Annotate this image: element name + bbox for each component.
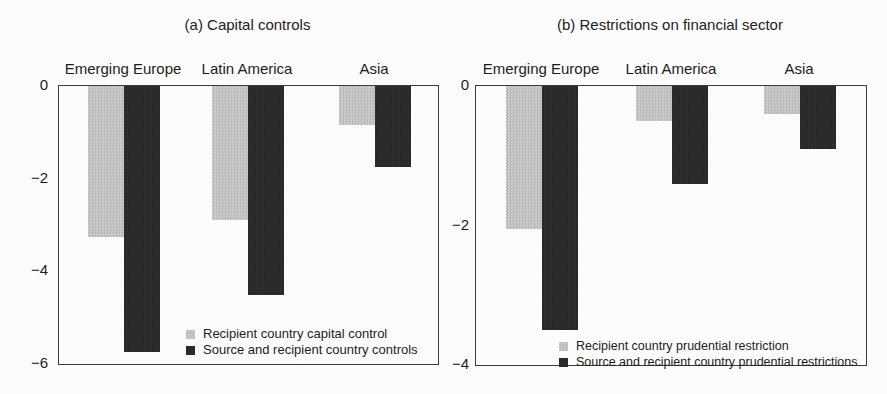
legend-label-source-and-recipient: Source and recipient country controls [203, 342, 418, 358]
legend: Recipient country prudential restriction… [559, 338, 857, 370]
legend-swatch-source-and-recipient [559, 358, 568, 367]
category-label-emerging-europe: Emerging Europe [483, 61, 600, 77]
bar-source-and-recipient-asia [375, 86, 411, 167]
category-label-asia: Asia [359, 61, 388, 77]
bar-recipient-asia [339, 86, 375, 125]
category-label-latin-america: Latin America [202, 61, 293, 77]
bar-recipient-emerging-europe [88, 86, 124, 237]
legend: Recipient country capital controlSource … [186, 326, 418, 358]
legend-label-source-and-recipient: Source and recipient country prudential … [576, 354, 857, 370]
legend-row-recipient: Recipient country capital control [186, 326, 418, 342]
bar-recipient-asia [764, 86, 800, 114]
plot-area: Recipient country prudential restriction… [475, 85, 867, 366]
category-label-latin-america: Latin America [626, 61, 717, 77]
category-label-emerging-europe: Emerging Europe [65, 61, 182, 77]
legend-label-recipient: Recipient country capital control [203, 326, 387, 342]
legend-label-recipient: Recipient country prudential restriction [576, 338, 789, 354]
legend-row-source-and-recipient: Source and recipient country prudential … [559, 354, 857, 370]
bar-source-and-recipient-asia [800, 86, 836, 149]
legend-swatch-recipient [186, 330, 195, 339]
panel-b-title: (b) Restrictions on financial sector [475, 16, 865, 34]
y-tick-label-neg2: −2 [0, 170, 48, 186]
bar-source-and-recipient-emerging-europe [124, 86, 160, 352]
plot-area: Recipient country capital controlSource … [58, 85, 439, 365]
panel-capital-controls: (a) Capital controls Emerging EuropeLati… [0, 0, 443, 394]
panel-financial-sector-restrictions: (b) Restrictions on financial sector Eme… [443, 0, 887, 394]
category-label-asia: Asia [784, 61, 813, 77]
bar-source-and-recipient-emerging-europe [542, 86, 578, 330]
bar-recipient-latin-america [212, 86, 248, 220]
legend-swatch-recipient [559, 342, 568, 351]
bar-recipient-latin-america [636, 86, 672, 121]
y-tick-label-neg2: −2 [443, 217, 469, 233]
legend-row-recipient: Recipient country prudential restriction [559, 338, 857, 354]
y-tick-label-neg4: −4 [0, 262, 48, 278]
figure: (a) Capital controls Emerging EuropeLati… [0, 0, 887, 394]
y-tick-label-0: 0 [0, 77, 48, 93]
y-tick-label-neg4: −4 [443, 356, 469, 372]
y-tick-label-neg6: −6 [0, 355, 48, 371]
y-tick-label-0: 0 [443, 77, 469, 93]
legend-row-source-and-recipient: Source and recipient country controls [186, 342, 418, 358]
bar-source-and-recipient-latin-america [672, 86, 708, 184]
legend-swatch-source-and-recipient [186, 346, 195, 355]
panel-a-title: (a) Capital controls [58, 16, 437, 34]
bar-source-and-recipient-latin-america [248, 86, 284, 295]
bar-recipient-emerging-europe [506, 86, 542, 229]
